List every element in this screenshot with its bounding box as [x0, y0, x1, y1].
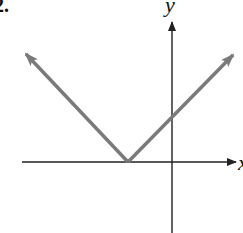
x-axis-label: x [238, 150, 243, 176]
problem-number: 2. [0, 0, 9, 17]
right-branch [128, 55, 233, 162]
v-shaped-graph [0, 0, 243, 233]
left-branch [26, 54, 128, 162]
y-axis-label: y [165, 0, 175, 18]
